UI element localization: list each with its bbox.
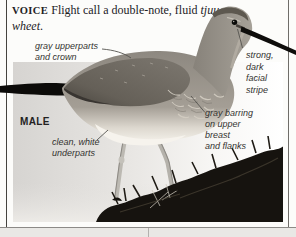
data-table-divider bbox=[148, 228, 149, 237]
bird-eye bbox=[232, 20, 237, 25]
label-facial-stripe: strong, dark facial stripe bbox=[246, 50, 288, 96]
label-white-underparts: clean, white underparts bbox=[52, 137, 114, 159]
label-male: MALE bbox=[20, 116, 50, 127]
label-gray-upperparts: gray upperparts and crown bbox=[35, 41, 113, 63]
label-gray-barring: gray barring on upper breast and flanks bbox=[205, 108, 261, 152]
data-table-strip bbox=[0, 227, 296, 237]
field-guide-panel: VOICE Flight call a double-note, fluid t… bbox=[0, 0, 296, 237]
